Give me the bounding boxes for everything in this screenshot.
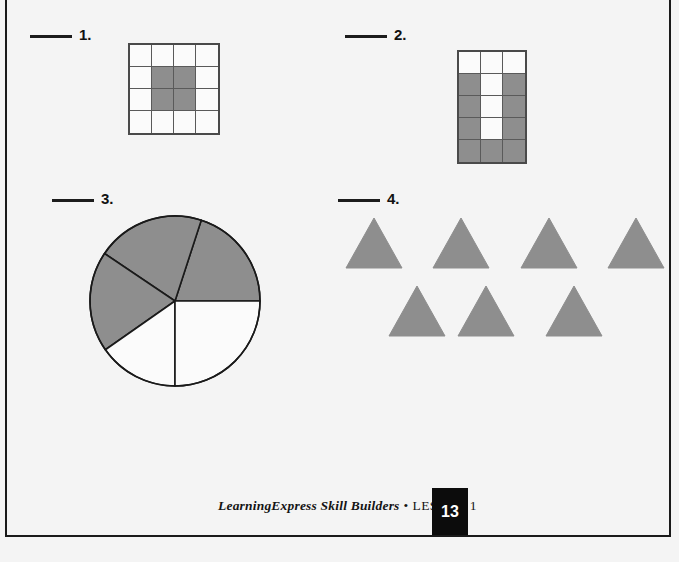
- grid-cell: [130, 67, 152, 89]
- triangle-shape: [345, 217, 403, 273]
- grid-cell: [459, 52, 481, 74]
- answer-blank-2[interactable]: [345, 35, 387, 38]
- grid-cell: [481, 74, 503, 96]
- triangle-shape: [607, 217, 665, 273]
- grid-cell: [481, 52, 503, 74]
- grid-cell: [459, 74, 481, 96]
- grid-cell: [503, 118, 525, 140]
- triangle-shape: [545, 285, 603, 341]
- problem-1-figure-grid: [128, 43, 220, 135]
- grid-cell: [503, 96, 525, 118]
- footer-brand: LearningExpress Skill Builders: [218, 498, 400, 513]
- pie-sector: [175, 301, 260, 386]
- answer-blank-1[interactable]: [30, 35, 72, 38]
- grid-cell: [481, 140, 503, 162]
- grid-cell: [196, 45, 218, 67]
- problem-3-number: 3.: [101, 191, 114, 206]
- grid-cell: [174, 45, 196, 67]
- answer-blank-4[interactable]: [338, 199, 380, 202]
- page-border-right: [669, 0, 671, 537]
- grid-cell: [130, 111, 152, 133]
- grid-cell: [174, 111, 196, 133]
- grid-cell: [196, 67, 218, 89]
- page-number-badge: 13: [432, 488, 468, 535]
- problem-1-number: 1.: [79, 27, 92, 42]
- problem-2-figure-grid: [457, 50, 527, 164]
- answer-blank-3[interactable]: [52, 199, 94, 202]
- grid-cell: [459, 140, 481, 162]
- grid-cell: [459, 118, 481, 140]
- grid-cell: [130, 89, 152, 111]
- grid-cell: [459, 96, 481, 118]
- grid-cell: [152, 89, 174, 111]
- triangle-shape: [432, 217, 490, 273]
- grid-cell: [152, 67, 174, 89]
- worksheet-page: 1. 2. 3. 4. LearningExpress Skill Builde…: [0, 0, 679, 562]
- page-border-left: [5, 0, 7, 537]
- problem-3-figure-pie: [85, 211, 265, 395]
- triangle-shape: [457, 285, 515, 341]
- grid-cell: [196, 111, 218, 133]
- grid-cell: [130, 45, 152, 67]
- problem-2-number: 2.: [394, 27, 407, 42]
- grid-cell: [503, 74, 525, 96]
- problem-4-label: 4.: [338, 186, 400, 206]
- triangle-shape: [388, 285, 446, 341]
- grid-cell: [503, 52, 525, 74]
- grid-cell: [481, 96, 503, 118]
- triangle-shape: [520, 217, 578, 273]
- grid-cell: [503, 140, 525, 162]
- grid-cell: [152, 111, 174, 133]
- problem-1-label: 1.: [30, 22, 92, 42]
- problem-2-label: 2.: [345, 22, 407, 42]
- problem-3-label: 3.: [52, 186, 114, 206]
- grid-cell: [196, 89, 218, 111]
- page-number: 13: [441, 503, 459, 521]
- grid-cell: [152, 45, 174, 67]
- problem-4-number: 4.: [387, 191, 400, 206]
- grid-cell: [174, 67, 196, 89]
- footer-separator: •: [404, 498, 409, 513]
- grid-cell: [174, 89, 196, 111]
- pie-chart-svg: [85, 211, 265, 391]
- page-border-bottom: [5, 535, 671, 537]
- grid-cell: [481, 118, 503, 140]
